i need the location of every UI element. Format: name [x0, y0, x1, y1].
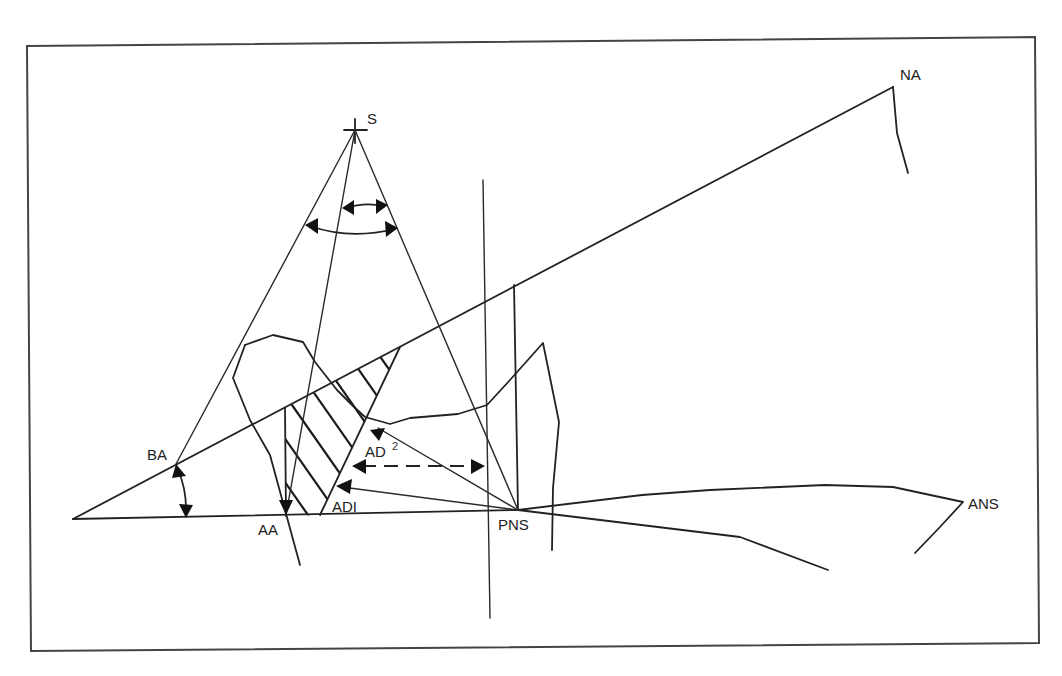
label-ad2-superscript: 2: [392, 440, 398, 452]
label-ans: ANS: [968, 495, 999, 512]
frame-border: [27, 37, 1039, 651]
label-adi: ADI: [332, 498, 357, 515]
s-aa-line: [286, 130, 355, 515]
pns-adi-line: [342, 487, 518, 510]
arrowhead-dash-left: [352, 459, 366, 474]
arrowhead-outer-right: [385, 221, 398, 237]
arrowhead-inner-left: [342, 200, 354, 215]
pns-ad2-line: [378, 428, 518, 510]
nasion-contour: [893, 87, 908, 173]
vertical-reference-line: [483, 180, 490, 618]
arrowhead-ad2: [370, 428, 385, 441]
arrowhead-adi: [336, 479, 352, 494]
airway-boundary: [285, 408, 286, 516]
cephalometric-diagram: S NA BA AA ADI AD 2 PNS ANS: [0, 0, 1062, 676]
label-s: S: [367, 110, 377, 127]
angle-arc-outer: [310, 226, 395, 234]
diagram-svg: S NA BA AA ADI AD 2 PNS ANS: [0, 0, 1062, 676]
arrowhead-aa: [279, 500, 293, 515]
airway-hatch: [190, 240, 530, 590]
ba-na-line: [73, 87, 893, 519]
arrowhead-dash-right: [471, 459, 485, 474]
label-aa: AA: [258, 521, 278, 538]
pns-vertical-line: [514, 285, 518, 510]
palatal-plane-line: [73, 510, 518, 519]
palate-lower-line: [518, 510, 828, 570]
label-na: NA: [900, 66, 921, 83]
label-pns: PNS: [498, 516, 529, 533]
label-ad2: AD: [365, 443, 386, 460]
label-ba: BA: [147, 446, 167, 463]
